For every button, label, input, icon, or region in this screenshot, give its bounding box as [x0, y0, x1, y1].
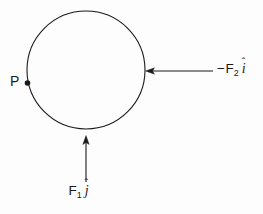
force-f2-base-symbol: F	[225, 61, 233, 76]
force-f1-unit-vector: ˆj	[85, 184, 89, 198]
force-f1-subscript: 1	[77, 190, 82, 200]
force-f2-label: −F2ˆi	[217, 62, 246, 78]
force-diagram-figure: P −F2ˆi F1ˆj	[0, 0, 263, 214]
point-p-marker	[25, 80, 31, 86]
force-f2-minus-sign: −	[217, 61, 225, 76]
force-arrow-f1	[83, 136, 89, 183]
force-f2-subscript: 2	[234, 68, 239, 78]
force-f2-hat-mark: ˆ	[242, 57, 246, 68]
force-f1-hat-mark: ˆ	[85, 178, 89, 189]
force-f1-base-symbol: F	[69, 183, 77, 198]
point-p-label-text: P	[10, 73, 20, 89]
force-arrow-f2	[146, 68, 214, 74]
force-f2-unit-vector: ˆi	[242, 62, 246, 76]
force-f1-label: F1ˆj	[68, 184, 89, 200]
point-p-label: P	[10, 74, 20, 88]
body-circle	[27, 11, 145, 129]
diagram-canvas	[0, 0, 263, 214]
